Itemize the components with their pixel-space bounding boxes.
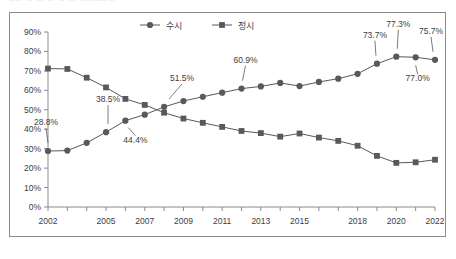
y-axis-tick-label: 20% [24, 163, 41, 173]
y-axis-tick-label: 70% [24, 66, 41, 76]
x-axis-tick-label: 2022 [426, 216, 445, 226]
x-axis-tick-label: 2018 [348, 216, 367, 226]
data-point-label: 38.5% [96, 94, 121, 104]
data-point-label: 44.4% [123, 135, 148, 145]
clipped-header-text: ■■ ■ ■ ■ ■ ■ ■■■■■ [8, 0, 115, 3]
x-axis-tick-label: 2005 [97, 216, 116, 226]
data-point-marker[interactable] [180, 98, 186, 104]
data-point-label: 75.7% [419, 26, 444, 36]
line-chart: 0%10%20%30%40%50%60%70%80%90%20022005200… [10, 13, 445, 236]
data-point-marker[interactable] [45, 66, 51, 72]
data-point-marker[interactable] [161, 110, 167, 116]
y-axis-tick-label: 60% [24, 85, 41, 95]
x-axis-tick-label: 2002 [39, 216, 58, 226]
x-axis-tick-label: 2009 [174, 216, 193, 226]
data-point-marker[interactable] [316, 135, 322, 141]
data-point-marker[interactable] [45, 148, 51, 154]
data-point-marker[interactable] [200, 94, 206, 100]
data-point-marker[interactable] [374, 153, 380, 159]
chart-frame: 0%10%20%30%40%50%60%70%80%90%20022005200… [9, 12, 446, 237]
y-axis-tick-label: 90% [24, 27, 41, 37]
data-label-leader-line [397, 30, 398, 49]
data-label-leader-line [375, 41, 376, 56]
data-point-marker[interactable] [103, 85, 109, 91]
data-point-marker[interactable] [297, 131, 303, 137]
data-point-marker[interactable] [84, 140, 90, 146]
x-axis-tick-label: 2007 [135, 216, 154, 226]
data-label-leader-line [431, 37, 433, 52]
data-point-marker[interactable] [335, 76, 341, 82]
data-point-marker[interactable] [393, 160, 399, 166]
data-point-marker[interactable] [122, 118, 128, 124]
data-point-marker[interactable] [142, 112, 148, 118]
series-line-정시 [48, 69, 435, 163]
data-label-leader-line [243, 66, 246, 81]
clipped-header-text-strip: ■■ ■ ■ ■ ■ ■ ■■■■■ [0, 0, 456, 9]
data-point-marker[interactable] [219, 124, 225, 130]
y-axis-tick-label: 10% [24, 183, 41, 193]
y-axis-tick-label: 0% [29, 202, 42, 212]
data-point-marker[interactable] [316, 79, 322, 85]
data-point-marker[interactable] [374, 61, 380, 67]
data-point-marker[interactable] [64, 148, 70, 154]
x-axis-tick-label: 2011 [213, 216, 232, 226]
y-axis-tick-label: 80% [24, 46, 41, 56]
data-point-marker[interactable] [413, 54, 419, 60]
data-point-label: 73.7% [363, 30, 388, 40]
y-axis-tick-label: 30% [24, 144, 41, 154]
data-point-marker[interactable] [103, 129, 109, 135]
data-point-marker[interactable] [413, 159, 419, 165]
data-point-marker[interactable] [335, 138, 341, 144]
legend-marker-circle-icon [147, 22, 153, 28]
data-point-label: 60.9% [233, 55, 258, 65]
data-point-marker[interactable] [277, 80, 283, 86]
data-point-marker[interactable] [432, 57, 438, 63]
data-point-label: 28.8% [34, 117, 59, 127]
data-point-marker[interactable] [219, 90, 225, 96]
data-point-marker[interactable] [432, 157, 438, 163]
data-point-label: 51.5% [170, 73, 195, 83]
data-point-marker[interactable] [258, 83, 264, 89]
data-point-marker[interactable] [355, 71, 361, 77]
data-point-marker[interactable] [200, 120, 206, 126]
data-point-marker[interactable] [296, 83, 302, 89]
data-point-marker[interactable] [181, 116, 187, 122]
legend-label-수시[interactable]: 수시 [166, 21, 182, 31]
data-point-marker[interactable] [142, 102, 148, 108]
data-point-marker[interactable] [64, 66, 70, 72]
legend-label-정시[interactable]: 정시 [238, 21, 254, 31]
data-point-marker[interactable] [277, 134, 283, 140]
legend-marker-square-icon [219, 22, 225, 28]
data-point-label: 77.0% [406, 73, 431, 83]
y-axis-tick-label: 50% [24, 105, 41, 115]
x-axis-tick-label: 2020 [387, 216, 406, 226]
data-point-marker[interactable] [238, 85, 244, 91]
data-point-marker[interactable] [393, 54, 399, 60]
x-axis-tick-label: 2013 [251, 216, 270, 226]
data-point-marker[interactable] [239, 128, 245, 134]
data-point-marker[interactable] [84, 75, 90, 81]
data-point-marker[interactable] [355, 143, 361, 149]
data-point-marker[interactable] [123, 96, 129, 102]
data-point-marker[interactable] [258, 130, 264, 136]
data-point-marker[interactable] [161, 104, 167, 110]
x-axis-tick-label: 2015 [290, 216, 309, 226]
data-label-leader-line [169, 84, 182, 99]
data-point-label: 77.3% [386, 19, 411, 29]
